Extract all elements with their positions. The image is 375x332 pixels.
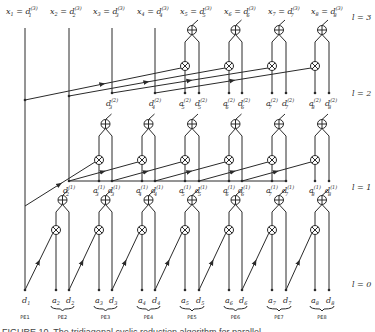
multiply-node-icon — [311, 156, 320, 165]
multiply-node-icon — [311, 226, 320, 235]
to-add-left — [315, 205, 322, 226]
junction-dot — [328, 92, 331, 95]
add-node-icon — [318, 196, 327, 205]
to-add-left — [272, 205, 279, 226]
pe-brace — [267, 306, 291, 311]
add-node-icon — [231, 196, 240, 205]
level1-label: d(1)8 — [325, 184, 337, 197]
level-label-1: l = 1 — [352, 183, 371, 192]
pe-label-6: PE6 — [231, 314, 240, 320]
level1-label: d(1)4 — [151, 184, 163, 197]
junction-dot — [271, 289, 274, 292]
add-node-icon — [275, 26, 284, 35]
junction-dot — [184, 289, 187, 292]
pe-label-7: PE7 — [274, 314, 283, 320]
junction-dot — [314, 289, 317, 292]
multiply-node-icon — [181, 226, 190, 235]
junction-dot — [314, 180, 317, 183]
level0-label: d7 — [283, 296, 292, 306]
junction-dot — [55, 289, 58, 292]
junction-dot — [271, 92, 274, 95]
junction-dot — [241, 289, 244, 292]
level0-label: d2 — [66, 296, 74, 306]
pe-brace — [137, 306, 160, 311]
junction-dot — [328, 289, 331, 292]
multiply-node-icon — [181, 156, 190, 165]
figure-caption: FIGURE 10. The tridiagonal cyclic reduct… — [2, 324, 374, 332]
output-leader — [322, 114, 328, 120]
pe-brace — [94, 306, 117, 311]
output-leader — [236, 20, 242, 26]
diagonal-arrow — [155, 68, 311, 93]
level-label-3: l = 3 — [352, 13, 371, 22]
junction-dot — [68, 180, 71, 183]
add-node-icon — [101, 120, 110, 129]
diagonal-arrow — [199, 162, 268, 181]
level0-label: d5 — [196, 296, 204, 306]
multiply-node-icon — [52, 226, 61, 235]
diagonal-arrow — [242, 233, 269, 290]
level2-label: d(2)3 — [106, 97, 118, 110]
pe-brace — [310, 306, 334, 311]
junction-dot — [141, 289, 144, 292]
level2-label: d(2)5 — [195, 97, 207, 110]
junction-dot — [98, 180, 101, 183]
top-label-x5: x5 = d(3)5 — [180, 5, 212, 18]
output-leader — [106, 114, 112, 120]
level1-label: d(1)7 — [282, 184, 294, 197]
output-leader — [149, 114, 155, 120]
pe-brace — [51, 306, 74, 311]
level1-label: a(1)7 — [266, 184, 278, 197]
level1-label: a(1)8 — [309, 184, 321, 197]
level1-label: a(1)3 — [93, 184, 105, 197]
to-add-right — [63, 205, 70, 215]
junction-dot — [154, 92, 157, 95]
level-labels: l = 3 l = 2 l = 1 l = 0 — [352, 13, 371, 289]
pe-brace — [180, 306, 204, 311]
to-add-left — [99, 129, 106, 156]
level2-label: a(2)5 — [179, 97, 191, 110]
to-add-left — [315, 129, 322, 156]
level1-label: d(1)6 — [238, 184, 250, 197]
to-add-right — [149, 129, 156, 139]
to-add-right — [279, 129, 286, 139]
to-add-right — [192, 205, 199, 215]
to-add-right — [192, 35, 199, 45]
junction-dot — [68, 95, 71, 98]
multiply-node-icon — [268, 156, 277, 165]
variable-labels: x1 = d(3)1x2 = d(3)2x3 = d(3)3x4 = d(3)4… — [6, 5, 343, 320]
top-label-x2: x2 = d(3)2 — [50, 5, 82, 18]
junction-dot — [328, 180, 331, 183]
junction-dot — [68, 289, 71, 292]
top-label-x3: x3 = d(3)3 — [93, 5, 125, 18]
junction-dot — [228, 92, 231, 95]
junction-dot — [111, 92, 114, 95]
to-add-left — [185, 129, 192, 156]
multiply-node-icon — [268, 62, 277, 71]
pe-label-8: PE8 — [317, 314, 326, 320]
level2-label: a(2)8 — [309, 97, 321, 110]
to-add-right — [322, 129, 329, 139]
junction-dot — [154, 289, 157, 292]
level2-label: d(2)6 — [238, 97, 250, 110]
to-add-left — [229, 35, 236, 62]
diagonal-arrow — [199, 233, 226, 290]
level-label-0: l = 0 — [352, 280, 371, 289]
to-add-left — [99, 205, 106, 226]
level0-label: a3 — [95, 296, 103, 306]
add-node-icon — [231, 26, 240, 35]
junction-dot — [184, 180, 187, 183]
to-add-left — [229, 205, 236, 226]
add-node-icon — [275, 196, 284, 205]
diagonal-arrow — [155, 162, 225, 181]
level0-label: a7 — [268, 296, 277, 306]
to-add-right — [149, 205, 156, 215]
add-node-icon — [144, 196, 153, 205]
junction-dot — [285, 180, 288, 183]
add-node-icon — [231, 120, 240, 129]
pe-brace — [224, 306, 247, 311]
diagonal-arrow — [69, 233, 96, 290]
add-node-icon — [188, 196, 197, 205]
top-label-x8: x8 = d(3)8 — [311, 5, 343, 18]
multiply-node-icon — [95, 156, 104, 165]
